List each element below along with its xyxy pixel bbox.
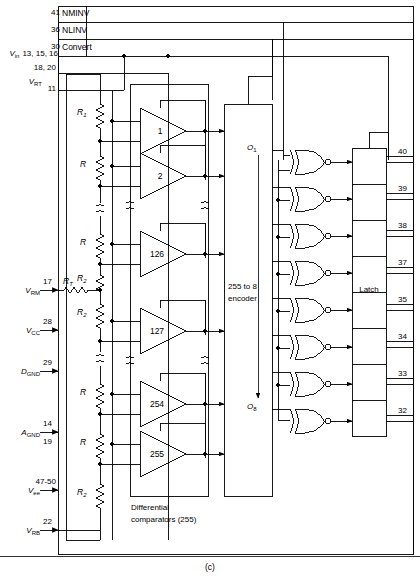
ladder-taps xyxy=(100,141,140,464)
encoder-output-last-label: O8 xyxy=(247,403,257,411)
o8-subscript: 8 xyxy=(253,406,256,412)
left-signal-agnd-pins: 14 xyxy=(0,420,52,428)
left-pin-leads xyxy=(40,290,58,530)
dgnd-symbol: D xyxy=(21,367,27,376)
encoder-block xyxy=(224,39,272,496)
left-signal-agnd-pins2: 19 xyxy=(0,438,52,446)
comparator-label-254: 254 xyxy=(144,400,170,409)
vin-subscript: in xyxy=(15,53,20,59)
left-signal-vcc-pins: 28 xyxy=(0,318,52,326)
left-signal-vin: Vin13, 15, 16 xyxy=(0,50,58,58)
latch-output-leads xyxy=(386,162,413,421)
top-signal-name-nlinv: NLINV xyxy=(62,26,87,35)
output-pin-37: 37 xyxy=(398,259,407,267)
convert-route xyxy=(58,39,388,160)
resistor-label-r2-b: R2 xyxy=(77,308,86,317)
left-signal-vin-pins2: 18, 20 xyxy=(0,64,56,72)
resistor-label-r-a: R xyxy=(80,160,86,169)
encoder-out-bus xyxy=(272,150,290,409)
vin-symbol: V xyxy=(9,49,14,58)
left-signal-vrb-symbol: VRB xyxy=(0,527,40,535)
left-signal-vrt-pins: 11 xyxy=(0,85,56,93)
comparator-ellipsis-upper xyxy=(126,202,209,210)
resistor-label-r-d: R xyxy=(80,438,86,447)
encoder-label-line1: 255 to 8 xyxy=(228,283,257,291)
top-pin-number-36: 36 xyxy=(38,26,60,34)
dgnd-subscript: GND xyxy=(27,371,40,377)
output-pin-38: 38 xyxy=(398,222,407,230)
output-pin-32: 32 xyxy=(398,407,407,415)
top-signal-lines xyxy=(58,6,413,56)
comparator-label-127: 127 xyxy=(144,327,170,336)
comparator-group-box xyxy=(130,84,208,496)
latch-label: Latch xyxy=(352,286,386,294)
resistor-label-r-b: R xyxy=(80,238,86,247)
left-signal-vrb-pins: 22 xyxy=(0,518,52,526)
nminv-gate-rail xyxy=(276,160,290,420)
agnd-subscript: GND xyxy=(27,432,40,438)
figure-root: 41 NMINV 36 NLINV 30 Convert Vin13, 15, … xyxy=(0,0,420,580)
r2b-subscript: 2 xyxy=(83,312,86,318)
vrb-subscript: RB xyxy=(32,530,40,536)
comparator-label-2: 2 xyxy=(148,172,172,181)
output-pin-40: 40 xyxy=(398,148,407,156)
xnor-gate xyxy=(290,224,352,248)
output-pin-39: 39 xyxy=(398,185,407,193)
output-pin-33: 33 xyxy=(398,370,407,378)
left-signal-dgnd-symbol: DGND xyxy=(0,368,40,376)
xnor-gate xyxy=(290,372,352,396)
resistor-label-r2-a: R2 xyxy=(77,274,86,283)
vrm-subscript: RM xyxy=(31,290,40,296)
r1-subscript: 1 xyxy=(83,112,86,118)
xnor-gate xyxy=(290,335,352,359)
resistor-label-r1: R1 xyxy=(77,108,86,117)
left-signal-vcc-symbol: VCC xyxy=(0,327,40,335)
vrb-symbol: V xyxy=(26,526,31,535)
comparator-label-126: 126 xyxy=(144,250,170,259)
o1-subscript: 1 xyxy=(253,147,256,153)
left-signal-agnd-symbol: AGND xyxy=(0,429,40,437)
resistor-label-rt: RT xyxy=(63,277,73,286)
comparators-caption-line1: Differential xyxy=(131,504,169,512)
left-signal-vrm-symbol: VRM xyxy=(0,287,40,295)
output-pin-35: 35 xyxy=(398,296,407,304)
resistor-label-r2-c: R2 xyxy=(77,488,86,497)
vin-taps xyxy=(100,56,140,540)
r2a-subscript: 2 xyxy=(83,278,86,284)
resistor-label-r-c: R xyxy=(80,388,86,397)
xnor-gate xyxy=(290,261,352,285)
comparator-label-1: 1 xyxy=(148,127,172,136)
left-signal-dgnd-pins: 29 xyxy=(0,359,52,367)
xnor-gate xyxy=(290,187,352,211)
figure-caption: (c) xyxy=(180,563,240,572)
xnor-gates xyxy=(290,150,352,433)
encoder-label-line2: encoder xyxy=(228,295,257,303)
comparators-caption-line2: comparators (255) xyxy=(131,516,196,524)
left-signal-vee-pins: 47-50 xyxy=(0,478,56,486)
vcc-subscript: CC xyxy=(31,330,40,336)
xnor-gate xyxy=(290,409,352,433)
vrm-symbol: V xyxy=(25,286,30,295)
left-signal-vrm-pins: 17 xyxy=(0,278,52,286)
agnd-symbol: A xyxy=(21,428,26,437)
vee-subscript: ee xyxy=(33,490,40,496)
xnor-gate xyxy=(290,298,352,322)
vin-pins: 13, 15, 16 xyxy=(22,49,58,58)
rt-subscript: T xyxy=(69,281,73,287)
encoder-output-first-label: O1 xyxy=(247,144,257,152)
r2c-subscript: 2 xyxy=(83,492,86,498)
latch-block xyxy=(352,132,388,436)
top-pin-number-41: 41 xyxy=(38,9,60,17)
left-signal-vee-symbol: Vee xyxy=(0,487,40,495)
comparator-ellipsis-lower xyxy=(126,357,209,365)
output-pin-34: 34 xyxy=(398,333,407,341)
comparator-label-255: 255 xyxy=(144,450,170,459)
top-signal-name-nminv: NMINV xyxy=(62,9,89,18)
top-signal-name-convert: Convert xyxy=(62,43,92,52)
xnor-gate xyxy=(290,150,352,174)
